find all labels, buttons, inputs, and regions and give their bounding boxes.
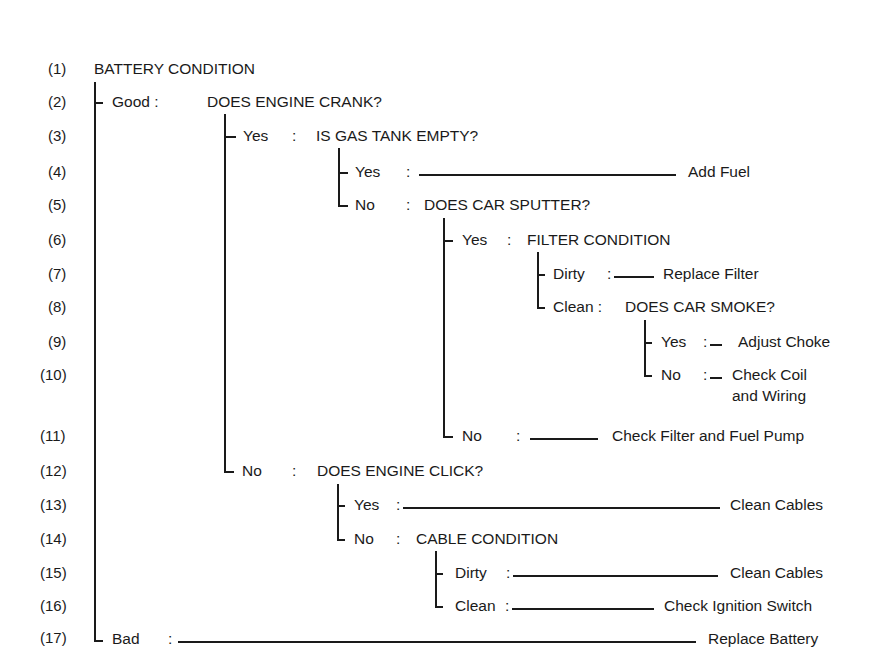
separator: : <box>406 163 410 181</box>
node-label: No <box>355 196 375 214</box>
connector <box>537 252 539 308</box>
connector <box>337 539 345 541</box>
connector <box>419 174 676 176</box>
separator: : <box>292 462 296 480</box>
separator: : <box>607 265 611 283</box>
node-label: Dirty <box>553 265 585 283</box>
row-number: (17) <box>40 629 67 647</box>
connector <box>94 640 103 642</box>
separator: : <box>396 530 400 548</box>
node-label: Yes <box>462 231 487 249</box>
row-number: (11) <box>40 427 66 445</box>
connector <box>530 438 598 440</box>
action-check-coil-line2: and Wiring <box>732 387 806 405</box>
row-number: (4) <box>48 163 66 181</box>
connector <box>94 102 103 104</box>
node-bad-label: Bad <box>112 630 140 648</box>
connector <box>644 320 646 376</box>
node-label: Yes <box>355 163 380 181</box>
action-add-fuel: Add Fuel <box>688 163 750 181</box>
separator: : <box>506 564 510 582</box>
connector <box>614 276 654 278</box>
action-adjust-choke: Adjust Choke <box>738 333 830 351</box>
connector <box>403 507 720 509</box>
row-number: (16) <box>40 597 67 615</box>
connector <box>338 172 348 174</box>
separator: : <box>292 127 296 145</box>
row-number: (9) <box>48 333 66 351</box>
node-label: Yes <box>661 333 686 351</box>
connector <box>224 136 236 138</box>
row-number: (3) <box>48 127 66 145</box>
connector <box>94 82 96 642</box>
node-label: Yes <box>243 127 268 145</box>
separator: : <box>168 630 172 648</box>
node-label: Clean <box>455 597 496 615</box>
node-label: No <box>462 427 482 445</box>
row-number: (1) <box>48 60 66 78</box>
row-number: (6) <box>48 231 66 249</box>
connector <box>537 307 545 309</box>
question-filter-condition: FILTER CONDITION <box>527 231 671 249</box>
separator: : <box>396 496 400 514</box>
separator: : <box>516 427 520 445</box>
action-replace-filter: Replace Filter <box>663 265 759 283</box>
node-label: No <box>354 530 374 548</box>
connector <box>443 436 453 438</box>
separator: : <box>703 366 707 384</box>
connector <box>338 148 340 206</box>
action-clean-cables-2: Clean Cables <box>730 564 823 582</box>
row-number: (15) <box>40 564 67 582</box>
question-car-sputter: DOES CAR SPUTTER? <box>424 196 590 214</box>
action-replace-battery: Replace Battery <box>708 630 818 648</box>
connector <box>435 573 443 575</box>
question-engine-click: DOES ENGINE CLICK? <box>317 462 483 480</box>
connector <box>337 484 339 540</box>
action-clean-cables: Clean Cables <box>730 496 823 514</box>
node-label: Clean : <box>553 298 602 316</box>
root-title: BATTERY CONDITION <box>94 60 255 78</box>
connector <box>435 606 443 608</box>
row-number: (5) <box>48 196 66 214</box>
separator: : <box>505 597 509 615</box>
separator: : <box>406 196 410 214</box>
row-number: (8) <box>48 298 66 316</box>
action-check-ignition: Check Ignition Switch <box>664 597 812 615</box>
node-label: No <box>242 462 262 480</box>
row-number: (2) <box>48 93 66 111</box>
connector <box>224 471 234 473</box>
question-gas-tank: IS GAS TANK EMPTY? <box>316 127 478 145</box>
node-label: Yes <box>354 496 379 514</box>
connector <box>178 641 696 643</box>
connector <box>337 505 345 507</box>
connector <box>513 575 718 577</box>
connector <box>710 377 722 379</box>
row-number: (13) <box>40 496 67 514</box>
decision-tree-diagram: (1) (2) (3) (4) (5) (6) (7) (8) (9) (10)… <box>0 0 884 648</box>
connector <box>537 274 545 276</box>
question-car-smoke: DOES CAR SMOKE? <box>625 298 775 316</box>
separator: : <box>507 231 511 249</box>
connector <box>435 551 437 607</box>
node-good-label: Good : <box>112 93 159 111</box>
separator: : <box>703 333 707 351</box>
connector <box>512 608 654 610</box>
connector <box>443 218 445 436</box>
question-cable-condition: CABLE CONDITION <box>416 530 558 548</box>
question-engine-crank: DOES ENGINE CRANK? <box>207 93 382 111</box>
node-label: Dirty <box>455 564 487 582</box>
connector <box>224 114 226 472</box>
row-number: (14) <box>40 530 67 548</box>
action-check-filter-pump: Check Filter and Fuel Pump <box>612 427 804 445</box>
action-check-coil: Check Coil <box>732 366 807 384</box>
connector <box>710 344 722 346</box>
node-label: No <box>661 366 681 384</box>
row-number: (12) <box>40 462 67 480</box>
row-number: (7) <box>48 265 66 283</box>
connector <box>443 240 453 242</box>
row-number: (10) <box>40 366 67 384</box>
connector <box>338 205 348 207</box>
connector <box>644 375 652 377</box>
connector <box>644 342 652 344</box>
